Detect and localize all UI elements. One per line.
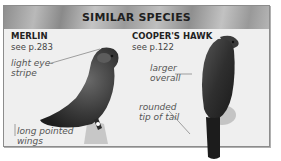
page-ref-coopers-hawk[interactable]: see p.122 [132, 42, 174, 52]
annotation-rounded-tip-of-tail: rounded tip of tail [139, 102, 179, 122]
coopers-hawk-illustration [188, 33, 248, 161]
annotation-larger-overall: larger overall [150, 63, 181, 83]
